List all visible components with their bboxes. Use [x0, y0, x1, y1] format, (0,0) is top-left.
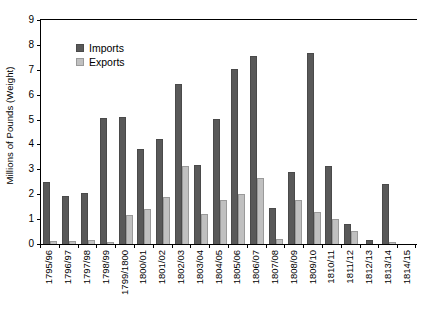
x-axis-tick [115, 244, 134, 249]
bar-exports [220, 200, 227, 244]
x-axis-label-cell: 1809/10 [303, 250, 322, 308]
x-axis-tick [397, 244, 416, 249]
bar-imports [43, 182, 50, 244]
x-axis-label-text: 1799/1800 [120, 250, 130, 295]
x-axis-tick [341, 244, 360, 249]
x-axis-label-cell: 1796/97 [59, 250, 78, 308]
x-axis-ticks [40, 244, 416, 249]
bar-imports [100, 118, 107, 244]
bar-imports [81, 193, 88, 244]
x-axis-tick [172, 244, 191, 249]
bar-imports [231, 69, 238, 244]
x-axis-label-cell: 1810/11 [322, 250, 341, 308]
legend-label-exports: Exports [89, 57, 125, 68]
x-axis-label-cell: 1803/04 [190, 250, 209, 308]
x-axis-label-text: 1795/96 [45, 250, 55, 284]
bar-group [285, 20, 304, 244]
x-axis-tick [78, 244, 97, 249]
chart-legend: Imports Exports [76, 41, 125, 69]
y-axis-tick-label: 3 [28, 164, 34, 174]
x-axis-label-cell: 1801/02 [153, 250, 172, 308]
x-axis-label-cell: 1795/96 [40, 250, 59, 308]
x-axis-label-cell: 1800/01 [134, 250, 153, 308]
bar-group [398, 20, 417, 244]
legend-label-imports: Imports [89, 43, 124, 54]
x-axis-tick [209, 244, 228, 249]
bar-exports [238, 194, 245, 244]
y-axis-tick-label: 0 [28, 239, 34, 249]
y-axis-tick-label: 6 [28, 90, 34, 100]
bar-exports [332, 219, 339, 244]
x-axis-tick [40, 244, 59, 249]
x-axis-label-text: 1797/98 [82, 250, 92, 284]
bar-exports [144, 209, 151, 244]
x-axis-label-text: 1800/01 [139, 250, 149, 284]
bar-group [135, 20, 154, 244]
x-axis-label-text: 1796/97 [63, 250, 73, 284]
bar-group [379, 20, 398, 244]
x-axis-tick [360, 244, 379, 249]
x-axis-tick [284, 244, 303, 249]
x-axis-label-text: 1810/11 [327, 250, 337, 284]
bar-group [342, 20, 361, 244]
x-axis-label-cell: 1797/98 [78, 250, 97, 308]
x-axis-labels: 1795/961796/971797/981798/991799/1800180… [40, 250, 416, 308]
bar-exports [351, 231, 358, 244]
bar-imports [382, 184, 389, 244]
x-axis-tick [96, 244, 115, 249]
x-axis-tick [190, 244, 209, 249]
bar-imports [307, 53, 314, 244]
bar-group [323, 20, 342, 244]
x-axis-label-cell: 1813/14 [378, 250, 397, 308]
x-axis-label-text: 1804/05 [214, 250, 224, 284]
x-axis-label-cell: 1814/15 [397, 250, 416, 308]
x-axis-tick [134, 244, 153, 249]
y-axis-tick-label: 2 [28, 189, 34, 199]
x-axis-label-text: 1812/13 [364, 250, 374, 284]
bar-imports [156, 139, 163, 244]
x-axis-label-text: 1802/03 [176, 250, 186, 284]
x-axis-tick [247, 244, 266, 249]
bar-group [229, 20, 248, 244]
bar-group [248, 20, 267, 244]
bar-exports [182, 166, 189, 244]
x-axis-tick [322, 244, 341, 249]
x-axis-tick [59, 244, 78, 249]
bar-imports [119, 117, 126, 244]
bar-imports [288, 172, 295, 244]
legend-item-exports: Exports [76, 55, 125, 69]
bar-exports [163, 197, 170, 244]
bar-group [191, 20, 210, 244]
x-axis-label-text: 1798/99 [101, 250, 111, 284]
bar-imports [344, 224, 351, 244]
x-axis-label-text: 1808/09 [289, 250, 299, 284]
bar-imports [250, 56, 257, 244]
y-axis-tick-label: 9 [28, 15, 34, 25]
x-axis-label-cell: 1808/09 [284, 250, 303, 308]
legend-swatch-exports-icon [76, 58, 84, 66]
x-axis-tick [378, 244, 397, 249]
x-axis-label-cell: 1805/06 [228, 250, 247, 308]
x-axis-tick [303, 244, 322, 249]
y-axis-title-text: Millions of Pounds (Weight) [4, 66, 15, 184]
x-axis-label-text: 1801/02 [157, 250, 167, 284]
legend-swatch-imports-icon [76, 44, 84, 52]
bar-imports [269, 208, 276, 244]
x-axis-label-text: 1803/04 [195, 250, 205, 284]
y-axis-tick-label: 4 [28, 139, 34, 149]
bar-chart: Millions of Pounds (Weight) 0123456789 1… [0, 0, 424, 310]
y-axis-title: Millions of Pounds (Weight) [0, 0, 18, 250]
x-axis-label-cell: 1804/05 [209, 250, 228, 308]
x-axis-label-text: 1811/12 [345, 250, 355, 284]
bar-imports [175, 84, 182, 244]
bar-group [41, 20, 60, 244]
y-axis-tick-label: 5 [28, 115, 34, 125]
legend-item-imports: Imports [76, 41, 125, 55]
bar-group [173, 20, 192, 244]
x-axis-label-cell: 1812/13 [360, 250, 379, 308]
bar-exports [295, 200, 302, 244]
y-axis-tick-label: 1 [28, 214, 34, 224]
bar-group [154, 20, 173, 244]
bar-exports [257, 178, 264, 244]
x-axis-label-cell: 1798/99 [96, 250, 115, 308]
